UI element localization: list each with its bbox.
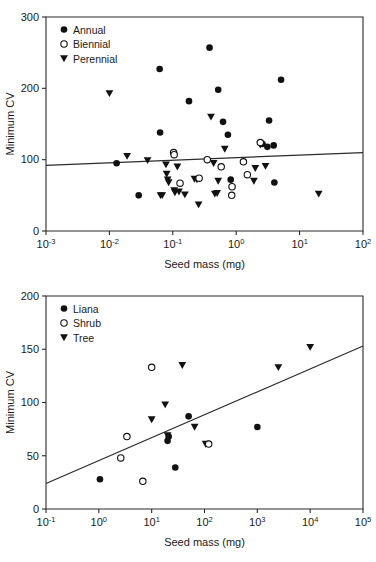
y-axis-title: Minimum CV — [4, 92, 16, 156]
data-point — [140, 478, 146, 484]
y-tick-label: 200 — [21, 82, 39, 94]
data-point — [264, 144, 271, 151]
y-tick-label: 150 — [21, 343, 39, 355]
legend-marker-filled-triangle-down — [60, 55, 68, 62]
data-point — [113, 160, 120, 167]
series-perennial — [106, 90, 323, 208]
data-point — [185, 413, 192, 420]
bottom-scatter-plot: 05010015020010-1100101102103104105Seed m… — [0, 281, 376, 562]
data-point — [244, 171, 250, 177]
data-point — [214, 178, 222, 185]
series-tree — [148, 344, 314, 448]
x-tick-exponent: 3 — [261, 515, 265, 524]
top-scatter-plot: 010020030010-310-210-1100101102Seed mass… — [0, 0, 376, 281]
data-point — [220, 119, 227, 126]
data-point — [195, 201, 203, 208]
x-tick-exponent: 2 — [209, 515, 213, 524]
data-point — [210, 160, 218, 167]
data-point — [221, 146, 229, 153]
data-point — [240, 159, 246, 165]
legend-label: Tree — [73, 332, 94, 344]
y-tick-label: 0 — [33, 225, 39, 237]
data-point — [118, 455, 124, 461]
x-tick-exponent: -2 — [112, 237, 119, 246]
data-point — [165, 433, 172, 440]
x-tick-label: 100 — [91, 515, 107, 529]
x-tick-label: 100 — [228, 237, 244, 251]
data-point — [171, 151, 177, 157]
data-point — [204, 156, 210, 162]
data-point — [156, 66, 163, 73]
x-axis-title: Seed mass (mg) — [164, 536, 245, 548]
data-point — [165, 179, 173, 186]
x-tick-label: 104 — [302, 515, 318, 529]
legend-marker-filled-triangle-down — [60, 334, 68, 341]
y-tick-label: 300 — [21, 11, 39, 23]
y-tick-label: 200 — [21, 290, 39, 302]
data-point — [177, 180, 183, 186]
data-point — [229, 192, 235, 198]
legend-label: Biennial — [73, 38, 110, 50]
x-tick-label: 102 — [196, 515, 212, 529]
series-biennial — [170, 139, 263, 198]
data-point — [218, 164, 224, 170]
data-point — [271, 179, 278, 186]
data-point — [227, 176, 234, 183]
legend: AnnualBiennialPerennial — [60, 24, 117, 65]
data-point — [207, 114, 215, 121]
regression-line — [46, 346, 363, 483]
y-tick-label: 100 — [21, 396, 39, 408]
legend-marker-open-circle — [61, 41, 67, 47]
data-point — [124, 433, 130, 439]
legend-label: Liana — [73, 303, 99, 315]
data-point — [148, 364, 154, 370]
data-point — [215, 86, 222, 93]
x-tick-label: 105 — [355, 515, 371, 529]
data-point — [266, 117, 273, 124]
y-tick-label: 0 — [33, 503, 39, 515]
data-point — [157, 129, 164, 136]
scatter-figure: 010020030010-310-210-1100101102Seed mass… — [0, 0, 376, 562]
x-axis-title: Seed mass (mg) — [164, 258, 245, 270]
x-tick-label: 10-3 — [37, 237, 56, 251]
legend-item-annual: Annual — [61, 24, 106, 36]
x-tick-label: 103 — [249, 515, 265, 529]
x-tick-exponent: -1 — [49, 515, 56, 524]
data-point — [306, 344, 314, 351]
x-tick-exponent: 0 — [240, 237, 244, 246]
x-tick-exponent: 1 — [156, 515, 160, 524]
x-tick-label: 102 — [355, 237, 371, 251]
legend: LianaShrubTree — [60, 303, 101, 344]
data-point — [206, 44, 213, 51]
data-point — [205, 441, 211, 447]
data-point — [172, 464, 179, 471]
data-point — [196, 175, 202, 181]
data-point — [161, 401, 169, 408]
data-point — [262, 163, 270, 170]
legend-marker-open-circle — [61, 320, 67, 326]
legend-item-liana: Liana — [61, 303, 99, 315]
data-point — [315, 191, 323, 198]
data-point — [178, 362, 186, 369]
legend-item-perennial: Perennial — [60, 53, 117, 65]
data-point — [186, 98, 193, 105]
legend-item-shrub: Shrub — [61, 317, 101, 329]
x-tick-exponent: 4 — [314, 515, 318, 524]
data-point — [229, 184, 235, 190]
data-point — [123, 153, 131, 160]
y-tick-label: 100 — [21, 153, 39, 165]
panel-top: 010020030010-310-210-1100101102Seed mass… — [0, 0, 376, 281]
legend-label: Perennial — [73, 53, 117, 65]
data-point — [173, 164, 181, 171]
data-point — [106, 90, 114, 97]
legend-marker-filled-circle — [61, 305, 68, 312]
panel-bottom: 05010015020010-1100101102103104105Seed m… — [0, 281, 376, 562]
x-tick-label: 10-1 — [163, 237, 182, 251]
data-point — [97, 476, 104, 483]
data-point — [148, 416, 156, 423]
legend-item-tree: Tree — [60, 332, 94, 344]
y-axis-title: Minimum CV — [4, 370, 16, 434]
data-point — [225, 131, 232, 138]
legend-label: Shrub — [73, 317, 101, 329]
series-liana — [97, 413, 261, 482]
